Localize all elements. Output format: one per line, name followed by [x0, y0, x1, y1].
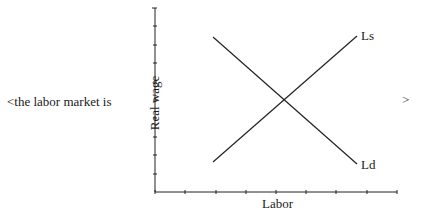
labor-supply-label: Ls [361, 28, 374, 44]
y-axis-label: Real wage [147, 63, 163, 143]
labor-market-chart [0, 0, 422, 223]
labor-demand-line [213, 37, 357, 164]
labor-supply-line [213, 36, 357, 162]
labor-demand-label: Ld [361, 157, 375, 173]
x-axis-label: Labor [262, 196, 293, 212]
